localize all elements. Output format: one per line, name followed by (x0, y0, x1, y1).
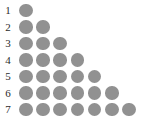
dot-marker (88, 70, 102, 84)
dot-marker (36, 86, 50, 100)
row-label-6: 6 (0, 85, 16, 102)
row-label-2: 2 (0, 19, 16, 36)
dot-row: 4 (0, 52, 141, 69)
dot-row: 7 (0, 101, 141, 118)
dot-marker (53, 103, 67, 117)
row-label-3: 3 (0, 35, 16, 52)
dot-row: 6 (0, 85, 141, 102)
dot-marker (19, 4, 33, 18)
dot-marker (105, 103, 119, 117)
row-label-1: 1 (0, 2, 16, 19)
dot-row: 2 (0, 19, 141, 36)
dot-marker (88, 103, 102, 117)
dot-marker (71, 70, 85, 84)
dot-marker (19, 37, 33, 51)
dot-marker (53, 70, 67, 84)
dot-marker (36, 37, 50, 51)
dot-row: 5 (0, 68, 141, 85)
row-label-4: 4 (0, 52, 16, 69)
dot-marker (105, 86, 119, 100)
row-label-5: 5 (0, 68, 16, 85)
dot-row: 3 (0, 35, 141, 52)
dot-staircase-figure: 1234567 (0, 0, 141, 124)
dot-marker (53, 37, 67, 51)
dot-marker (36, 103, 50, 117)
dot-marker (88, 86, 102, 100)
dot-marker (36, 70, 50, 84)
dot-marker (36, 20, 50, 34)
dot-marker (36, 53, 50, 67)
row-label-7: 7 (0, 101, 16, 118)
dot-marker (19, 86, 33, 100)
dot-marker (71, 53, 85, 67)
dot-marker (19, 20, 33, 34)
dot-row: 1 (0, 2, 141, 19)
dot-marker (71, 86, 85, 100)
dot-marker (71, 103, 85, 117)
dot-marker (53, 53, 67, 67)
dot-marker (53, 86, 67, 100)
dot-marker (19, 103, 33, 117)
dot-marker (122, 103, 136, 117)
dot-marker (19, 53, 33, 67)
dot-marker (19, 70, 33, 84)
